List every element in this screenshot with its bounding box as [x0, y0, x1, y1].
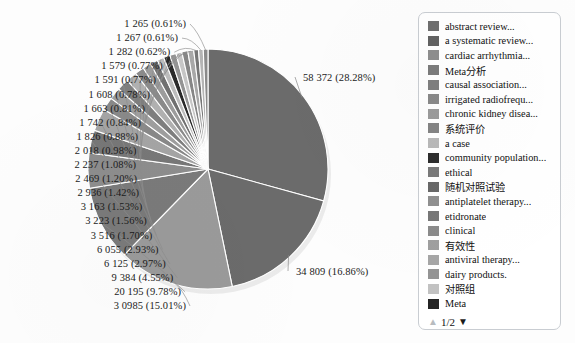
legend-item-label: clinical [445, 225, 475, 236]
legend-item-label: cardiac arrhythmia... [445, 50, 530, 61]
legend-item-label: 有效性 [445, 238, 475, 253]
pie-slice-label: 34 809 (16.86%) [296, 266, 368, 277]
legend-item[interactable]: dairy products. [419, 267, 560, 282]
legend-item-label: irrigated radiofrequ... [445, 94, 533, 105]
pie-slice-label: 1 265 (0.61%) [0, 18, 186, 29]
pie-slice-label: 2 469 (1.20%) [0, 173, 137, 184]
legend-color-swatch [428, 255, 439, 265]
legend-color-swatch [428, 299, 439, 309]
legend-item[interactable]: Meta分析 [419, 63, 560, 78]
legend-item[interactable]: irrigated radiofrequ... [419, 92, 560, 107]
legend-color-swatch [428, 211, 439, 221]
legend-color-swatch [428, 123, 439, 133]
legend-item[interactable]: a systematic review... [419, 34, 560, 49]
legend-item[interactable]: antiplatelet therapy... [419, 194, 560, 209]
pie-slice-label: 6 055 (2.93%) [0, 244, 159, 255]
legend-color-swatch [428, 80, 439, 90]
legend-item-label: 对照组 [445, 281, 475, 296]
legend-item[interactable]: a case [419, 136, 560, 151]
pie-slice-label: 1 267 (0.61%) [0, 32, 178, 43]
pie-slice-label: 2 018 (0.98%) [0, 145, 136, 156]
legend-color-swatch [428, 94, 439, 104]
legend-item-label: a case [445, 138, 470, 149]
pie-slice-label: 1 591 (0.77%) [0, 74, 156, 85]
legend-color-swatch [428, 36, 439, 46]
legend-item-label: etidronate [445, 211, 486, 222]
pie-slice-label: 3 516 (1.70%) [0, 230, 152, 241]
legend-item[interactable]: ethical [419, 165, 560, 180]
legend-item[interactable]: etidronate [419, 209, 560, 224]
legend-item-label: antiviral therapy... [445, 254, 520, 265]
legend-page-text: 1/2 [441, 316, 455, 328]
legend-item[interactable]: community population... [419, 150, 560, 165]
legend-pager[interactable]: ▲ 1/2 ▼ [419, 315, 560, 330]
legend-item-label: chronic kidney disea... [445, 108, 538, 119]
triangle-down-icon[interactable]: ▼ [458, 317, 468, 327]
legend-item[interactable]: chronic kidney disea... [419, 107, 560, 122]
chart-screenshot: 58 372 (28.28%)34 809 (16.86%)1 265 (0.6… [0, 0, 575, 343]
legend-item-label: 随机对照试验 [445, 179, 505, 194]
pie-slice-label: 3 223 (1.56%) [0, 215, 147, 226]
legend-item-label: 系统评价 [445, 121, 485, 136]
pie-slice-label: 1 826 (0.88%) [0, 131, 138, 142]
pie-slice-label: 2 936 (1.42%) [0, 187, 139, 198]
legend-item[interactable]: abstract review... [419, 19, 560, 34]
legend-color-swatch [428, 269, 439, 279]
legend-item-label: ethical [445, 167, 472, 178]
pie-slice-label: 1 663 (0.81%) [0, 103, 145, 114]
legend-item[interactable]: 随机对照试验 [419, 180, 560, 195]
pie-slice-label: 9 384 (4.55%) [0, 272, 173, 283]
pie-chart-area: 58 372 (28.28%)34 809 (16.86%)1 265 (0.6… [0, 0, 415, 343]
pie-slice-label: 1 579 (0.77%) [0, 60, 163, 71]
pie-slice-label: 6 125 (2.97%) [0, 258, 166, 269]
legend-color-swatch [428, 240, 439, 250]
pie-slice-label: 58 372 (28.28%) [303, 72, 375, 83]
legend-color-swatch [428, 50, 439, 60]
legend-item[interactable]: Meta [419, 296, 560, 311]
pie-slice-label: 1 282 (0.62%) [0, 46, 170, 57]
legend-item-label: community population... [445, 152, 546, 163]
legend-item-label: Meta [445, 298, 466, 309]
legend-color-swatch [428, 182, 439, 192]
legend-panel[interactable]: abstract review...a systematic review...… [418, 12, 561, 330]
pie-slice-label: 2 237 (1.08%) [0, 159, 136, 170]
legend-item-label: Meta分析 [445, 63, 486, 78]
legend-color-swatch [428, 109, 439, 119]
legend-item-label: dairy products. [445, 269, 507, 280]
legend-item-label: antiplatelet therapy... [445, 196, 531, 207]
pie-slice-label: 3 0985 (15.01%) [0, 300, 186, 311]
legend-list: abstract review...a systematic review...… [419, 19, 560, 311]
legend-color-swatch [428, 196, 439, 206]
legend-color-swatch [428, 65, 439, 75]
legend-item[interactable]: 有效性 [419, 238, 560, 253]
legend-item[interactable]: 系统评价 [419, 121, 560, 136]
legend-item[interactable]: antiviral therapy... [419, 253, 560, 268]
legend-item[interactable]: clinical [419, 223, 560, 238]
legend-item[interactable]: causal association... [419, 77, 560, 92]
legend-color-swatch [428, 21, 439, 31]
legend-item[interactable]: 对照组 [419, 282, 560, 297]
legend-color-swatch [428, 284, 439, 294]
pie-slice-label: 20 195 (9.78%) [0, 286, 181, 297]
legend-color-swatch [428, 167, 439, 177]
legend-item-label: abstract review... [445, 21, 515, 32]
pie-slice-label: 1 742 (0.84%) [0, 117, 141, 128]
legend-color-swatch [428, 153, 439, 163]
legend-item-label: causal association... [445, 79, 527, 90]
pie-slice-label: 3 163 (1.53%) [0, 201, 142, 212]
legend-color-swatch [428, 226, 439, 236]
legend-color-swatch [428, 138, 439, 148]
pie-slice-label: 1 608 (0.78%) [0, 89, 150, 100]
triangle-up-icon[interactable]: ▲ [428, 317, 438, 327]
legend-item[interactable]: cardiac arrhythmia... [419, 48, 560, 63]
legend-item-label: a systematic review... [445, 35, 533, 46]
